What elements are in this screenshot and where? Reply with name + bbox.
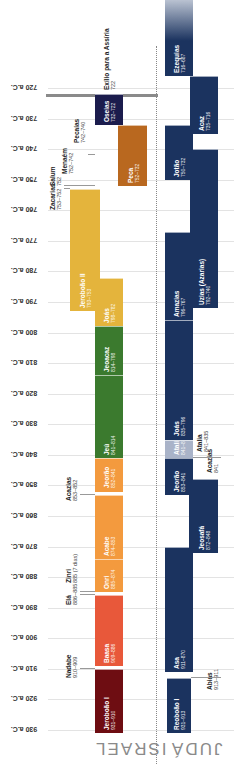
reign-bar: Peca752–732 [118, 125, 147, 186]
reign-bar: Jeorão853–841 [165, 458, 193, 495]
reign-bar: Acaz735–716 [190, 76, 218, 134]
reign-label: Uzias (Azarias)792–740 [199, 259, 211, 305]
year-tick-label: 920 a.C. [2, 695, 46, 702]
reign-label: Jeú841–814 [104, 435, 116, 454]
label-leader-line [80, 494, 95, 495]
reign-label: Joás798–782 [104, 304, 116, 323]
reign-years: 742–740 [81, 119, 87, 143]
year-tick-label: 720 a.C. [2, 84, 46, 91]
reign-years: 872–848 [205, 525, 210, 549]
reign-years: 885–874 [111, 570, 116, 589]
reign-bar: Jeú841–814 [95, 375, 123, 458]
reign-years: 909–886 [111, 643, 116, 662]
reign-years: 852–841 [111, 467, 116, 488]
year-tick-label: 800 a.C. [2, 329, 46, 336]
reign-years: 886–885 [73, 583, 79, 604]
reign-years: 874–853 [111, 536, 116, 556]
reign-bar: Acabe874–853 [95, 495, 123, 559]
reign-label: Oseias732–722 [104, 100, 116, 121]
year-tick-label: 840 a.C. [2, 451, 46, 458]
year-tick-label: 930 a.C. [2, 726, 46, 733]
reign-label: Jeoacaz814–798 [104, 347, 116, 372]
reign-label: Jeorão852–841 [104, 467, 116, 488]
label-leader-line [193, 457, 211, 458]
reign-label-external: Abias913–911 [207, 669, 220, 690]
label-leader-line [76, 185, 95, 186]
reign-years: 793–753 [87, 273, 92, 308]
reign-years: 814–798 [111, 347, 116, 372]
year-tick-label: 770 a.C. [2, 237, 46, 244]
reign-bar: Oseias732–722 [95, 94, 123, 125]
reign-years: 885 (7 dias) [73, 554, 79, 583]
reign-label-external: Atalia841–835 [197, 430, 210, 451]
reign-years: 835–796 [181, 417, 186, 436]
reign-label: Baasa909–886 [104, 643, 116, 662]
reign-years: 752–732 [134, 163, 139, 182]
label-leader-line [88, 154, 95, 155]
reign-label-external: Pecaías742–740 [74, 119, 87, 143]
gridline [48, 333, 234, 334]
reign-bar: Amazias796–767 [165, 232, 193, 321]
reign-label: Acaz735–716 [199, 111, 211, 130]
reign-label: Atalia841–835 [174, 440, 186, 455]
year-tick-label: 740 a.C. [2, 145, 46, 152]
gridline [48, 608, 234, 609]
reign-label: Joás835–796 [174, 417, 186, 436]
reign-years: 931–913 [181, 699, 186, 730]
gridline [48, 638, 234, 639]
reign-label: Amazias796–767 [174, 291, 186, 317]
year-tick-label: 910 a.C. [2, 665, 46, 672]
year-tick-label: 750 a.C. [2, 176, 46, 183]
label-leader-line [80, 668, 95, 669]
year-tick-label: 880 a.C. [2, 573, 46, 580]
reign-label-external: Nadabe910–909 [66, 655, 79, 678]
reign-bar: Onri885–874 [95, 559, 123, 593]
reign-label: Asa911–870 [174, 650, 186, 669]
gridline [48, 730, 234, 731]
reign-years: 796–767 [181, 291, 186, 317]
reign-bar: Ezequias716–687 [165, 0, 193, 76]
exile-label: Exílio para a Assíria722 [104, 28, 117, 90]
kingdom-label-juda: JUDÁ [170, 738, 222, 758]
reign-label-external: Menaém752–742 [62, 148, 75, 174]
year-tick-label: 900 a.C. [2, 634, 46, 641]
reign-label: Ezequias716–687 [174, 45, 186, 73]
reign-label: Reoboão I931–913 [174, 699, 186, 730]
reign-label: Jeroboão I931–910 [104, 697, 116, 730]
reign-label: Peca752–732 [127, 163, 139, 182]
reign-years: 841 [214, 449, 220, 473]
reign-label: Onri885–874 [104, 570, 116, 589]
reign-years: 841–814 [111, 435, 116, 454]
reign-bar: Jotão750–732 [165, 125, 193, 180]
reign-bar: Jeosafá872–848 [189, 479, 218, 552]
reign-bar: Jeroboão I931–910 [95, 669, 123, 733]
reign-bar: Atalia841–835 [165, 440, 193, 458]
kings-timeline-chart: 720 a.C.730 a.C.740 a.C.750 a.C.760 a.C.… [0, 0, 252, 769]
reign-label-external: Acazias841 [207, 449, 220, 473]
kingdom-label-israel: ISRAEL [94, 738, 166, 758]
year-tick-label: 870 a.C. [2, 543, 46, 550]
reign-label: Jotão750–732 [174, 157, 186, 176]
reign-years: 913–911 [214, 669, 220, 690]
label-leader-line [80, 594, 95, 595]
reign-years: 911–870 [181, 650, 186, 669]
reign-label: Jeroboão II793–753 [80, 273, 92, 308]
reign-years: 753–752 [57, 184, 63, 210]
reign-years: 750–732 [181, 157, 186, 176]
gridline [48, 394, 234, 395]
year-tick-label: 860 a.C. [2, 512, 46, 519]
label-leader-line [64, 188, 70, 189]
reign-years: 910–909 [73, 655, 79, 678]
kingdom-divider [156, 46, 157, 764]
reign-years: 853–841 [181, 470, 186, 491]
reign-bar: Joás835–796 [165, 320, 193, 439]
reign-years: 931–910 [111, 697, 116, 730]
reign-years: 792–740 [206, 259, 211, 305]
year-tick-label: 730 a.C. [2, 115, 46, 122]
year-tick-label: 810 a.C. [2, 359, 46, 366]
reign-label-external: Zinri885 (7 dias) [66, 554, 79, 583]
reign-label: Jeosafá872–848 [198, 525, 210, 549]
reign-bar: Reoboão I931–913 [167, 678, 191, 733]
reign-years: 752–742 [69, 148, 75, 174]
label-leader-line [80, 591, 95, 592]
